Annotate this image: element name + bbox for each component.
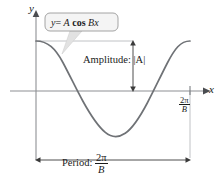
callout-tail [62, 31, 82, 54]
period-fraction: 2πB [95, 152, 108, 175]
graph-canvas [0, 0, 222, 177]
period-denominator: B [95, 164, 108, 175]
equation-argument: Bx [88, 17, 99, 28]
amplitude-arrow [130, 40, 136, 92]
equation-label: y= A cos Bx [51, 18, 99, 28]
period-arrow [35, 157, 191, 163]
tick-fraction: 2πB [179, 96, 190, 115]
x-axis [10, 88, 211, 95]
tick-denominator: B [179, 105, 190, 114]
period-numerator: 2π [95, 152, 108, 164]
period-annotation: Period: 2πB [62, 152, 108, 175]
equation-amplitude-symbol: A [64, 17, 70, 28]
equation-function-name: cos [72, 17, 85, 28]
y-axis-label: y [29, 3, 34, 14]
equation-equals: = [55, 17, 61, 28]
period-word: Period: [62, 157, 92, 168]
amplitude-annotation: Amplitude: |A| [83, 55, 145, 66]
y-axis [33, 10, 40, 160]
cosine-graph-figure: y= A cos Bx y x Amplitude: |A| Period: 2… [0, 0, 222, 177]
x-tick-label: 2πB [179, 96, 190, 115]
x-axis-label: x [209, 84, 214, 95]
